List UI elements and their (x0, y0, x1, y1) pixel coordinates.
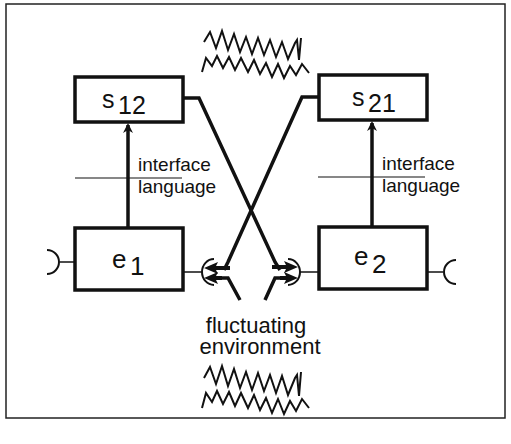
e2-right-socket-icon (444, 260, 456, 284)
s21-box: s 21 (319, 75, 427, 120)
left-interface-label-line1: interface (138, 154, 211, 175)
bottom-zigzag-noise-icon (202, 366, 309, 414)
env-label-line2: environment (199, 334, 320, 359)
e2-box: e 2 (319, 227, 427, 289)
left-interface-label-line2: language (138, 176, 216, 197)
top-zigzag-noise-icon (202, 31, 309, 78)
s12-label-base: s (102, 85, 115, 113)
e1-box: e 1 (75, 228, 183, 290)
s12-box: s 12 (75, 77, 183, 122)
s12-label-sub: 12 (118, 91, 146, 119)
env-to-e1-line (218, 278, 240, 300)
e1-left-socket-icon (47, 250, 59, 274)
e2-label-sub: 2 (372, 249, 386, 279)
right-interface-label-line1: interface (382, 153, 455, 174)
e1-label-sub: 1 (130, 251, 144, 281)
e1-label-base: e (112, 244, 126, 274)
e2-label-base: e (354, 241, 368, 271)
right-interface-label-line2: language (382, 175, 460, 196)
s21-label-sub: 21 (368, 89, 396, 117)
diagram-canvas: s 12 s 21 e 1 e 2 interface language int… (0, 0, 511, 444)
env-to-e2-line (265, 278, 285, 300)
s21-label-base: s (352, 83, 365, 111)
